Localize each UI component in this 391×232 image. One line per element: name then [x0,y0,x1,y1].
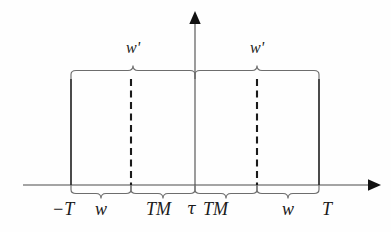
brace-top-right [195,66,319,80]
brace-top-left [71,66,195,80]
figure-canvas: w' w' w TM TM w −T τ T [0,0,391,232]
diagram-svg [0,0,391,232]
up-arrowhead [189,11,200,24]
right-arrowhead [368,179,381,191]
label-w-prime-left: w' [126,40,140,56]
brace-bottom-tm-left [131,185,195,199]
label-tm-right: TM [203,200,228,218]
value-axis [189,11,200,185]
label-tau: τ [187,201,196,217]
brace-bottom-tm-right [195,185,257,199]
label-w-left: w [95,200,107,218]
label-w-right: w [282,200,294,218]
time-axis [23,179,381,191]
label-T: T [322,200,332,218]
brace-bottom-w-right [257,185,319,199]
brace-bottom-w-left [71,185,131,199]
label-w-prime-right: w' [250,40,264,56]
label-tm-left: TM [146,200,171,218]
label-minus-T: −T [52,200,74,218]
